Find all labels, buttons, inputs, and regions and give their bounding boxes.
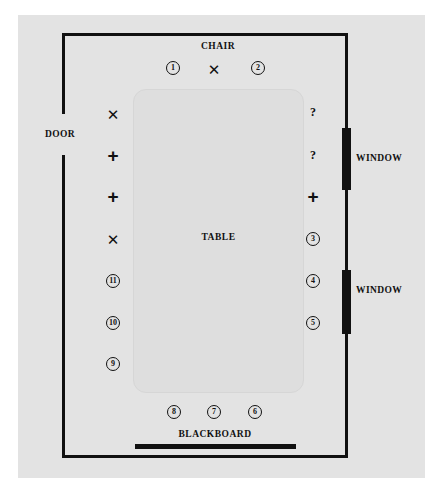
right-question-2: ?: [303, 145, 323, 165]
diagram-canvas: DOOR WINDOW WINDOW TABLE CHAIR BLACKBOAR…: [0, 0, 442, 487]
room-wall-top: [62, 33, 348, 36]
door-label: DOOR: [45, 129, 75, 139]
seat-11: 11: [106, 274, 120, 288]
seat-5: 5: [306, 316, 320, 330]
room-wall-left-upper: [62, 33, 65, 114]
seat-7: 7: [207, 405, 221, 419]
window-icon-lower: [342, 270, 351, 334]
room-wall-right: [345, 33, 348, 458]
seat-8: 8: [167, 405, 181, 419]
blackboard-label: BLACKBOARD: [120, 429, 310, 439]
table-label: TABLE: [133, 232, 304, 242]
right-question-1: ?: [303, 102, 323, 122]
room-wall-bottom: [62, 455, 348, 458]
seat-3: 3: [306, 232, 320, 246]
seat-2: 2: [251, 61, 265, 75]
room-wall-left-lower: [62, 155, 65, 458]
right-plus-1: +: [303, 186, 323, 206]
seat-10: 10: [106, 316, 120, 330]
blackboard-icon: [135, 444, 296, 449]
seat-9: 9: [106, 357, 120, 371]
seat-6: 6: [248, 405, 262, 419]
seat-4: 4: [306, 274, 320, 288]
left-x-2: ✕: [103, 229, 123, 249]
left-plus-2: +: [103, 186, 123, 206]
left-x-1: ✕: [103, 104, 123, 124]
seat-1: 1: [166, 61, 180, 75]
chair-label: CHAIR: [178, 41, 258, 51]
window-label-lower: WINDOW: [356, 285, 402, 295]
window-icon-upper: [342, 128, 351, 190]
window-label-upper: WINDOW: [356, 153, 402, 163]
left-plus-1: +: [103, 145, 123, 165]
chair-position: ✕: [204, 59, 224, 79]
